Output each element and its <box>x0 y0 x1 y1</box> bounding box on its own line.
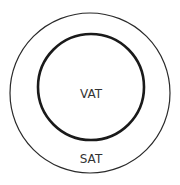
fat-compartment-diagram: VAT SAT <box>0 0 180 185</box>
vat-label: VAT <box>80 87 103 101</box>
sat-label: SAT <box>80 152 103 166</box>
